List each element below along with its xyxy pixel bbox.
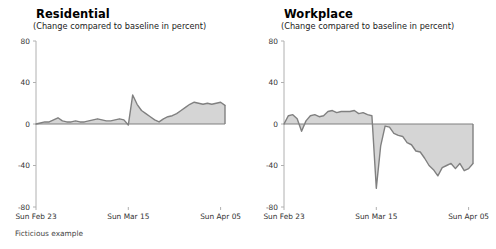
y-tick-label: 0	[25, 120, 30, 129]
x-tick-label: Sun Mar 15	[355, 212, 397, 221]
figure-footnote: Ficticious example	[15, 229, 83, 238]
panel-workplace: Workplace (Change compared to baseline i…	[248, 0, 496, 222]
y-tick-label: 40	[21, 78, 31, 87]
y-tick-label: -80	[266, 203, 278, 212]
y-tick-label: -40	[18, 161, 30, 170]
y-tick-label: 80	[269, 37, 279, 46]
y-tick-label: 80	[21, 37, 31, 46]
panel-residential: Residential (Change compared to baseline…	[0, 0, 248, 222]
x-tick-label: Sun Feb 23	[263, 212, 305, 221]
x-tick-label: Sun Mar 15	[107, 212, 149, 221]
y-tick-label: -80	[18, 203, 30, 212]
y-tick-label: 40	[269, 78, 279, 87]
area-fill	[284, 111, 473, 189]
x-tick-label: Sun Apr 05	[448, 212, 489, 221]
plot-area-workplace: 80400-40-80Sun Feb 23Sun Mar 15Sun Apr 0…	[248, 0, 496, 222]
x-tick-label: Sun Feb 23	[15, 212, 57, 221]
dual-area-chart-figure: Residential (Change compared to baseline…	[0, 0, 496, 249]
y-tick-label: 0	[273, 120, 278, 129]
y-tick-label: -40	[266, 161, 278, 170]
x-tick-label: Sun Apr 05	[200, 212, 241, 221]
plot-area-residential: 80400-40-80Sun Feb 23Sun Mar 15Sun Apr 0…	[0, 0, 248, 222]
